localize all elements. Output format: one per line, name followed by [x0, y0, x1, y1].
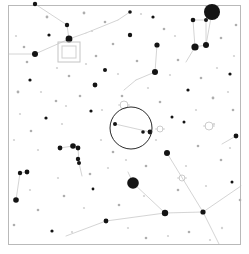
star-point	[44, 116, 47, 119]
star-point	[32, 51, 38, 57]
star-point	[229, 147, 231, 149]
star-point	[95, 55, 98, 58]
chart-background	[0, 0, 249, 254]
star-point	[232, 109, 235, 112]
star-point	[46, 16, 49, 19]
star-point	[145, 165, 148, 168]
star-point	[13, 224, 16, 227]
star-point	[56, 67, 58, 69]
star-point	[83, 12, 86, 15]
star-point	[63, 195, 66, 198]
star-chart-canvas[interactable]	[0, 0, 249, 254]
star-point	[171, 116, 174, 119]
star-point	[200, 77, 203, 80]
star-point	[125, 159, 127, 161]
star-point	[37, 209, 40, 212]
star-point	[117, 73, 119, 75]
star-point	[89, 109, 92, 112]
star-point	[100, 139, 102, 141]
star-point	[164, 150, 170, 156]
star-point	[147, 87, 149, 89]
star-point	[203, 42, 209, 48]
star-point	[239, 199, 242, 202]
star-point	[220, 159, 223, 162]
star-point	[228, 72, 231, 75]
star-point	[197, 145, 200, 148]
star-point	[127, 177, 139, 189]
star-point	[185, 165, 187, 167]
star-point	[76, 146, 81, 151]
star-point	[213, 123, 215, 125]
star-point	[186, 88, 189, 91]
star-point	[205, 185, 207, 187]
star-point	[152, 69, 158, 75]
star-point	[93, 83, 98, 88]
star-point	[92, 188, 95, 191]
star-point	[113, 122, 117, 126]
star-point	[121, 95, 124, 98]
star-point	[127, 227, 129, 229]
star-point	[68, 75, 71, 78]
star-point	[143, 195, 145, 197]
star-point	[183, 121, 186, 124]
star-point	[112, 43, 115, 46]
star-point	[209, 239, 211, 241]
star-point	[234, 134, 239, 139]
star-point	[15, 35, 17, 37]
star-point	[162, 210, 168, 216]
star-point	[70, 143, 76, 149]
star-point	[177, 59, 180, 62]
sky-map-svg[interactable]	[0, 0, 249, 254]
star-point	[83, 207, 85, 209]
star-point	[200, 209, 205, 214]
star-point	[231, 181, 234, 184]
star-point	[191, 18, 196, 23]
star-point	[128, 33, 132, 37]
star-point	[233, 55, 235, 57]
star-point	[118, 204, 121, 207]
star-point	[227, 91, 229, 93]
star-point	[66, 36, 73, 43]
star-point	[216, 67, 218, 69]
star-point	[25, 170, 30, 175]
star-point	[19, 113, 21, 115]
star-point	[220, 37, 223, 40]
star-point	[65, 105, 67, 107]
star-point	[65, 23, 69, 27]
star-point	[191, 43, 198, 50]
star-point	[174, 35, 176, 37]
star-point	[104, 219, 109, 224]
star-point	[177, 189, 180, 192]
star-point	[40, 91, 42, 93]
star-point	[58, 146, 63, 151]
star-point	[85, 63, 87, 65]
star-point	[61, 123, 63, 125]
star-point	[151, 15, 154, 18]
star-point	[37, 149, 39, 151]
star-point	[155, 139, 157, 141]
star-point	[212, 97, 215, 100]
star-point	[128, 10, 132, 14]
star-point	[55, 100, 58, 103]
star-point	[13, 139, 15, 141]
star-point	[141, 130, 145, 134]
star-point	[91, 30, 93, 32]
star-point	[136, 60, 139, 63]
star-point	[140, 13, 142, 15]
star-point	[28, 78, 31, 81]
star-point	[18, 171, 22, 175]
star-point	[89, 173, 92, 176]
star-point	[79, 95, 82, 98]
star-point	[204, 18, 208, 22]
star-point	[57, 177, 59, 179]
star-point	[204, 4, 220, 20]
star-point	[50, 229, 53, 232]
star-point	[71, 231, 73, 233]
star-point	[163, 28, 166, 31]
star-point	[26, 61, 29, 64]
star-point	[47, 33, 50, 36]
star-point	[101, 109, 103, 111]
star-point	[154, 42, 159, 47]
star-point	[77, 161, 81, 165]
star-point	[159, 101, 162, 104]
